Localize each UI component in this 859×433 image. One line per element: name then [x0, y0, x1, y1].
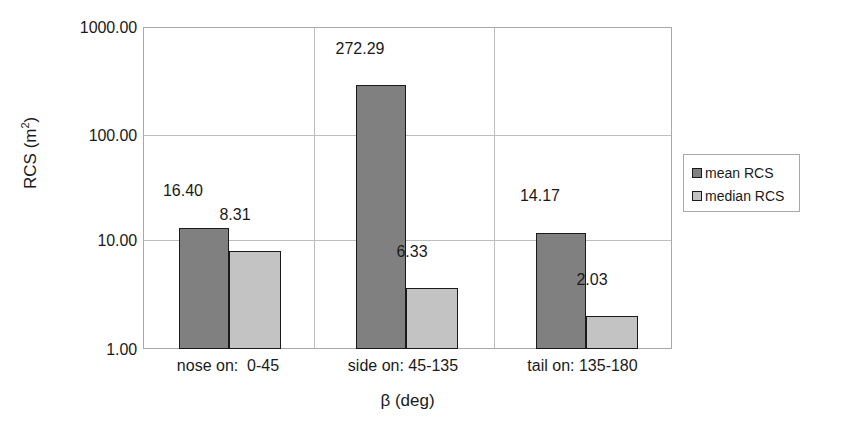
bar-median-nose-on — [229, 251, 281, 349]
x-tick-label-nose-on: nose on: 0-45 — [143, 357, 313, 375]
mean-swatch-icon — [692, 168, 702, 178]
y-tick-label-1: 1.00 — [5, 342, 137, 358]
y-axis-title-tail: ) — [21, 117, 40, 123]
y-axis-title: RCS (m2) — [19, 63, 41, 243]
bar-mean-tail-on — [536, 233, 586, 349]
legend-item-mean-rcs: mean RCS — [692, 161, 799, 184]
value-label-mean-tail-on: 14.17 — [495, 187, 585, 205]
x-tick-label-tail-on: tail on: 135-180 — [493, 357, 672, 375]
gridline-100 — [144, 135, 671, 136]
y-axis-title-base: RCS (m — [21, 129, 40, 189]
x-tick-label-side-on: side on: 45-135 — [313, 357, 493, 375]
value-label-median-nose-on: 8.31 — [190, 206, 280, 224]
value-label-mean-side-on: 272.29 — [315, 40, 405, 58]
rcs-bar-chart: 1000.00 100.00 10.00 1.00 RCS (m2) 16.40… — [0, 0, 859, 433]
legend-item-median-rcs: median RCS — [692, 184, 799, 207]
bar-median-side-on — [406, 288, 458, 349]
category-divider-1 — [314, 28, 315, 348]
bar-median-tail-on — [586, 316, 638, 349]
y-tick-label-1000: 1000.00 — [5, 20, 137, 36]
value-label-median-side-on: 6.33 — [367, 243, 457, 261]
bar-mean-nose-on — [179, 228, 229, 349]
value-label-mean-nose-on: 16.40 — [138, 182, 228, 200]
value-label-median-tail-on: 2.03 — [547, 271, 637, 289]
legend-label-mean-rcs: mean RCS — [705, 166, 773, 180]
legend-label-median-rcs: median RCS — [705, 189, 784, 203]
x-axis-title: β (deg) — [143, 391, 672, 411]
bar-mean-side-on — [356, 85, 406, 349]
chart-legend: mean RCS median RCS — [683, 154, 800, 212]
y-axis-title-exponent: 2 — [19, 122, 31, 128]
median-swatch-icon — [692, 191, 702, 201]
